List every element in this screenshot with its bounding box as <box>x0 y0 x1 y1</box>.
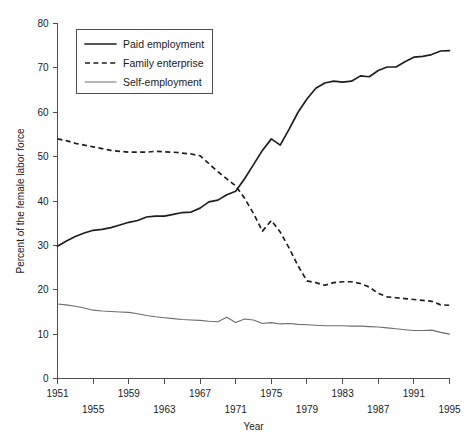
y-tick-label: 80 <box>37 18 49 29</box>
x-tick-label: 1951 <box>46 388 69 399</box>
figure-container: 0102030405060708019511955195919631967197… <box>0 0 466 447</box>
x-tick-label: 1983 <box>331 388 354 399</box>
y-tick-label: 0 <box>43 373 49 384</box>
axis-titles: YearPercent of the female labor force <box>15 128 264 431</box>
x-axis-title: Year <box>243 421 264 432</box>
x-tick-label: 1975 <box>260 388 283 399</box>
x-tick-label: 1979 <box>296 404 319 415</box>
x-tick-label: 1955 <box>82 404 105 415</box>
chart-legend: Paid employmentFamily enterpriseSelf-emp… <box>76 29 212 93</box>
y-tick-label: 60 <box>37 107 49 118</box>
x-tick-label: 1963 <box>153 404 176 415</box>
x-tick-label: 1959 <box>118 388 141 399</box>
series-line-self-employment <box>58 304 450 334</box>
y-tick-label: 30 <box>37 240 49 251</box>
y-tick-label: 70 <box>37 62 49 73</box>
legend-label: Family enterprise <box>123 57 204 69</box>
legend-label: Self-employment <box>123 76 202 88</box>
x-tick-label: 1987 <box>367 404 390 415</box>
y-tick-label: 10 <box>37 329 49 340</box>
y-tick-label: 20 <box>37 284 49 295</box>
y-tick-label: 40 <box>37 196 49 207</box>
x-tick-label: 1995 <box>438 404 461 415</box>
line-chart: 0102030405060708019511955195919631967197… <box>0 0 466 447</box>
x-tick-label: 1991 <box>403 388 426 399</box>
legend-label: Paid employment <box>123 38 204 50</box>
y-axis-title: Percent of the female labor force <box>15 128 26 274</box>
y-tick-label: 50 <box>37 151 49 162</box>
x-tick-label: 1967 <box>189 388 212 399</box>
x-tick-label: 1971 <box>225 404 248 415</box>
